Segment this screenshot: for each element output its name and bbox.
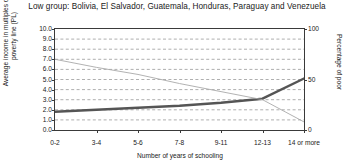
x-tick-label: 14 or more xyxy=(288,139,320,146)
y-tick-label-left: 8.0 xyxy=(43,46,52,53)
chart-title: Low group: Bolivia, El Salvador, Guatema… xyxy=(0,2,354,11)
y-tick-mark-left xyxy=(52,59,55,60)
x-tick-label: 0-2 xyxy=(50,139,60,146)
x-tick-mark xyxy=(180,130,181,133)
y-tick-mark-left xyxy=(52,110,55,111)
y-tick-mark-left xyxy=(52,49,55,50)
y-tick-label-left: 1.0 xyxy=(43,117,52,124)
y-tick-label-right: 0 xyxy=(308,127,312,134)
y-tick-mark-right xyxy=(304,80,307,81)
y-axis-label-left: Average income in multiples of the pover… xyxy=(2,0,20,91)
x-axis-label: Number of years of schooling xyxy=(55,152,305,159)
y-tick-mark-left xyxy=(52,130,55,131)
y-tick-label-right: 100 xyxy=(308,26,319,33)
plot-svg xyxy=(55,29,304,130)
series-line-1 xyxy=(55,59,304,122)
x-tick-mark xyxy=(304,130,305,133)
y-tick-mark-left xyxy=(52,80,55,81)
x-tick-mark xyxy=(263,130,264,133)
y-tick-label-left: 0.0 xyxy=(43,127,52,134)
x-tick-mark xyxy=(221,130,222,133)
y-tick-mark-left xyxy=(52,90,55,91)
x-tick-label: 5-6 xyxy=(133,139,143,146)
y-tick-label-left: 2.0 xyxy=(43,107,52,114)
y-tick-label-left: 6.0 xyxy=(43,66,52,73)
x-tick-mark xyxy=(138,130,139,133)
x-tick-label: 3-4 xyxy=(92,139,102,146)
chart-container: Low group: Bolivia, El Salvador, Guatema… xyxy=(0,0,354,165)
x-tick-label: 7-8 xyxy=(175,139,185,146)
plot-area: 0.01.02.03.04.05.06.07.08.09.010.0 05010… xyxy=(54,28,305,131)
y-tick-label-left: 10.0 xyxy=(39,26,52,33)
y-tick-mark-left xyxy=(52,39,55,40)
y-tick-label-left: 5.0 xyxy=(43,76,52,83)
y-axis-label-right: Percentage of poor xyxy=(334,19,344,105)
x-tick-mark xyxy=(97,130,98,133)
y-tick-label-left: 3.0 xyxy=(43,96,52,103)
y-tick-label-right: 50 xyxy=(308,76,315,83)
y-tick-mark-left xyxy=(52,100,55,101)
y-tick-mark-left xyxy=(52,120,55,121)
x-tick-label: 9-11 xyxy=(215,139,228,146)
data-series-layer xyxy=(55,59,304,122)
y-tick-mark-right xyxy=(304,29,307,30)
y-tick-label-left: 4.0 xyxy=(43,86,52,93)
gridlines xyxy=(55,39,304,120)
x-tick-label: 12-13 xyxy=(254,139,271,146)
y-tick-mark-left xyxy=(52,29,55,30)
y-tick-label-left: 9.0 xyxy=(43,36,52,43)
y-tick-label-left: 7.0 xyxy=(43,56,52,63)
y-tick-mark-left xyxy=(52,69,55,70)
